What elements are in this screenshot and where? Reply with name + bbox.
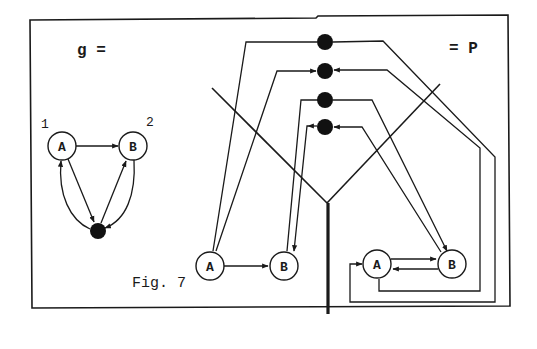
edge-dot-to-a xyxy=(61,161,90,229)
hub-dot xyxy=(90,223,106,239)
label-g: g = xyxy=(77,42,106,60)
label-p: = P xyxy=(449,40,478,58)
graph-g: g = 1 2 A B xyxy=(41,42,154,239)
wire-2-left xyxy=(216,71,316,251)
black-dot-1 xyxy=(317,34,333,50)
node-a-label: A xyxy=(58,140,66,155)
p-right-node-a-label: A xyxy=(373,258,381,273)
black-dot-3 xyxy=(317,92,333,108)
p-left-node-a-label: A xyxy=(206,260,214,275)
edge-b-to-dot xyxy=(105,160,134,228)
node-a-index: 1 xyxy=(41,117,49,132)
black-dot-2 xyxy=(317,63,333,79)
black-dot-4 xyxy=(317,119,333,135)
wire-2-loop xyxy=(379,279,480,291)
node-b-label: B xyxy=(129,140,137,155)
figure-caption: Fig. 7 xyxy=(132,275,186,292)
p-right-node-b-label: B xyxy=(448,258,456,273)
separator-right-arm xyxy=(327,84,440,203)
wire-3-right xyxy=(333,100,447,251)
node-b-index: 2 xyxy=(146,115,154,130)
graph-p: = P A B A B xyxy=(196,34,495,314)
wire-1-left xyxy=(213,42,317,251)
figure-canvas: g = 1 2 A B Fig. 7 = P xyxy=(0,0,537,349)
wire-4-right xyxy=(334,127,441,252)
wire-4-left xyxy=(294,126,308,251)
p-left-node-b-label: B xyxy=(280,260,288,275)
